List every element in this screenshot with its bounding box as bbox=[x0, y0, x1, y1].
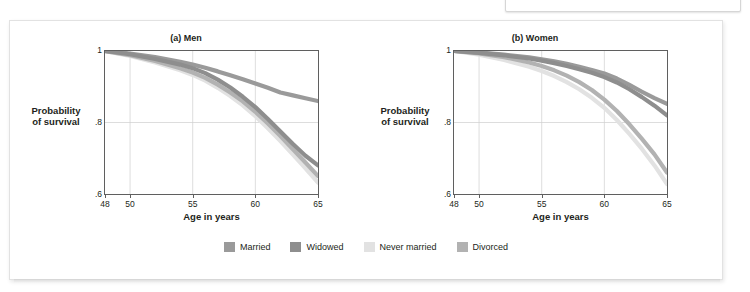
xtick-label-50: 50 bbox=[474, 199, 483, 209]
y-axis-label-line1: Probability bbox=[31, 105, 80, 116]
xtick-label-55: 55 bbox=[537, 199, 546, 209]
xtick-mark-65 bbox=[667, 194, 668, 198]
xtick-mark-60 bbox=[604, 194, 605, 198]
xtick-label-48: 48 bbox=[449, 199, 458, 209]
xtick-label-60: 60 bbox=[251, 199, 260, 209]
xtick-label-50: 50 bbox=[125, 199, 134, 209]
xtick-label-65: 65 bbox=[313, 199, 322, 209]
panel-men-x-axis-label: Age in years bbox=[104, 211, 319, 222]
y-axis-label-line2: of survival bbox=[367, 116, 443, 127]
xtick-mark-60 bbox=[255, 194, 256, 198]
panel-women-ytick-1: 1 bbox=[446, 45, 451, 55]
legend-label: Divorced bbox=[473, 242, 509, 252]
xtick-label-55: 55 bbox=[188, 199, 197, 209]
panel-women-x-axis-label: Age in years bbox=[453, 211, 668, 222]
legend-item-divorced: Divorced bbox=[457, 242, 509, 252]
xtick-mark-55 bbox=[193, 194, 194, 198]
xtick-mark-50 bbox=[130, 194, 131, 198]
legend-swatch-icon bbox=[224, 242, 235, 252]
panel-women-curves bbox=[454, 51, 667, 194]
figure-card: (a) Men Probability of survival 1 .8 .6 … bbox=[9, 20, 723, 280]
xtick-mark-48 bbox=[105, 194, 106, 198]
y-axis-label-line2: of survival bbox=[18, 116, 94, 127]
xtick-label-65: 65 bbox=[662, 199, 671, 209]
xtick-mark-55 bbox=[542, 194, 543, 198]
chart-legend: MarriedWidowedNever marriedDivorced bbox=[10, 242, 722, 252]
panel-women-y-axis-label: Probability of survival bbox=[367, 105, 443, 127]
panel-women-title: (b) Women bbox=[365, 33, 705, 43]
y-axis-label-line1: Probability bbox=[380, 105, 429, 116]
legend-label: Widowed bbox=[306, 242, 343, 252]
xtick-mark-65 bbox=[318, 194, 319, 198]
panel-women-ytick-8: .8 bbox=[444, 117, 451, 127]
top-caption-strip: if god let him live.” [Lillard & Waite, … bbox=[505, 0, 741, 12]
legend-label: Married bbox=[240, 242, 271, 252]
legend-item-married: Married bbox=[224, 242, 271, 252]
panel-men-curves bbox=[105, 51, 318, 194]
series-line-divorced bbox=[454, 51, 667, 173]
panel-men-y-axis-label: Probability of survival bbox=[18, 105, 94, 127]
legend-item-never-married: Never married bbox=[364, 242, 437, 252]
card-bottom-shadow bbox=[14, 279, 720, 283]
xtick-label-48: 48 bbox=[100, 199, 109, 209]
panel-men: (a) Men Probability of survival 1 .8 .6 … bbox=[16, 33, 356, 223]
panel-women-plot-area: 1 .8 .6 4850556065 bbox=[453, 50, 668, 195]
panel-men-ytick-8: .8 bbox=[95, 117, 102, 127]
panel-men-title: (a) Men bbox=[16, 33, 356, 43]
legend-label: Never married bbox=[380, 242, 437, 252]
panel-men-gridlines bbox=[105, 51, 318, 194]
panel-men-ytick-1: 1 bbox=[97, 45, 102, 55]
panel-women-ytick-6: .6 bbox=[444, 189, 451, 199]
xtick-mark-50 bbox=[479, 194, 480, 198]
legend-swatch-icon bbox=[457, 242, 468, 252]
panel-men-ytick-6: .6 bbox=[95, 189, 102, 199]
xtick-label-60: 60 bbox=[600, 199, 609, 209]
panel-women: (b) Women Probability of survival 1 .8 .… bbox=[365, 33, 705, 223]
panel-men-plot-area: 1 .8 .6 4850556065 bbox=[104, 50, 319, 195]
legend-item-widowed: Widowed bbox=[290, 242, 343, 252]
xtick-mark-48 bbox=[454, 194, 455, 198]
legend-swatch-icon bbox=[364, 242, 375, 252]
legend-swatch-icon bbox=[290, 242, 301, 252]
